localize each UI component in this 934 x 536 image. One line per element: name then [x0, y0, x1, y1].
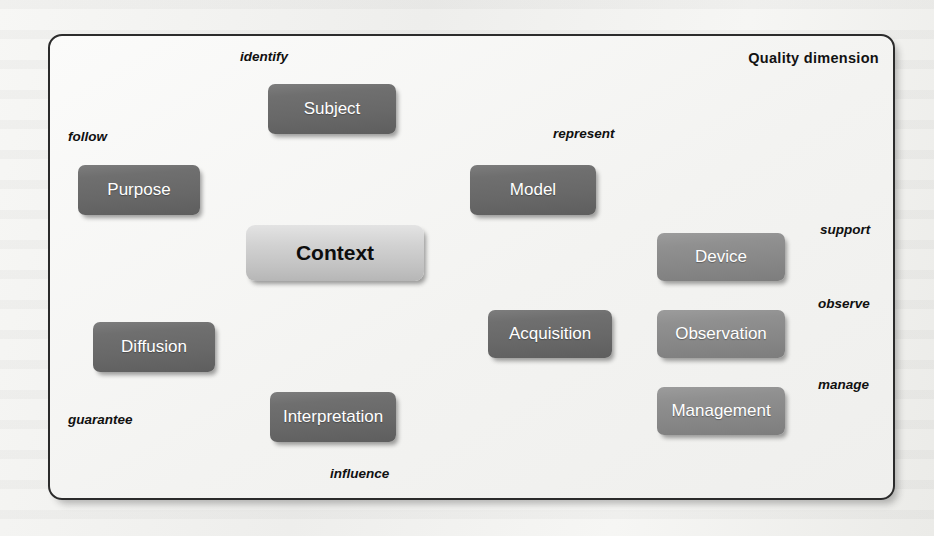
node-management[interactable]: Management — [657, 387, 785, 435]
role-label-represent: represent — [553, 126, 615, 141]
node-interpretation[interactable]: Interpretation — [270, 392, 396, 442]
node-label-diffusion: Diffusion — [121, 337, 187, 357]
diagram-page: Quality dimension Context Subject Purpos… — [0, 0, 934, 536]
node-label-acquisition: Acquisition — [509, 324, 591, 344]
node-model[interactable]: Model — [470, 165, 596, 215]
role-label-influence: influence — [330, 466, 389, 481]
node-purpose[interactable]: Purpose — [78, 165, 200, 215]
node-observation[interactable]: Observation — [657, 310, 785, 358]
role-label-support: support — [820, 222, 870, 237]
role-label-follow: follow — [68, 129, 107, 144]
node-acquisition[interactable]: Acquisition — [488, 310, 612, 358]
role-label-guarantee: guarantee — [68, 412, 133, 427]
node-label-device: Device — [695, 247, 747, 267]
role-label-manage: manage — [818, 377, 869, 392]
role-label-identify: identify — [240, 49, 288, 64]
node-label-observation: Observation — [675, 324, 767, 344]
role-label-observe: observe — [818, 296, 870, 311]
node-subject[interactable]: Subject — [268, 84, 396, 134]
node-device[interactable]: Device — [657, 233, 785, 281]
node-label-context: Context — [296, 241, 374, 265]
node-label-model: Model — [510, 180, 556, 200]
node-label-interpretation: Interpretation — [283, 407, 383, 427]
node-context[interactable]: Context — [246, 225, 424, 281]
page-title: Quality dimension — [748, 50, 879, 66]
node-label-subject: Subject — [304, 99, 361, 119]
node-label-management: Management — [671, 401, 770, 421]
node-diffusion[interactable]: Diffusion — [93, 322, 215, 372]
node-label-purpose: Purpose — [107, 180, 170, 200]
